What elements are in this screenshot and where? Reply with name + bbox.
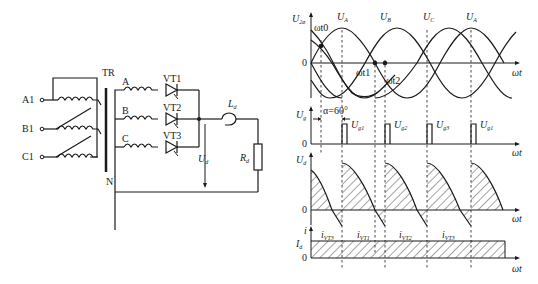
thyristor-label-vt3: VT3 [163,130,181,141]
thyristor-vt1-icon [166,84,199,99]
thyristors: VT1 VT2 VT3 [163,73,201,156]
phase-label-c: C [122,133,129,144]
label-wt1: ωt1 [356,67,370,78]
thyristor-vt2-icon [166,113,199,128]
resistor-icon [254,144,262,170]
peak-label-ua2: UA [466,11,477,23]
phase-label-b: B [122,105,129,116]
rectifier-diagram: A1 B1 C1 TR [0,0,538,284]
label-wt0: ωt0 [314,22,328,33]
coil-b1-icon [58,126,101,134]
thyristor-label-vt2: VT2 [163,102,181,113]
y-axis-label: U2ø [292,13,306,25]
gate-y-label: Ug [296,109,306,121]
pulse-g1b [471,124,476,144]
pulse-g2 [385,124,390,144]
ud-x-label: ωt [512,213,522,224]
terminal-a1 [40,98,44,102]
resistor-label: Rd [239,152,250,164]
point-wt1 [373,61,378,66]
ud-zero: 0 [302,204,307,215]
pulse-label-0: Ug1 [351,119,364,131]
point-wt0 [319,44,324,49]
primary-windings [44,78,101,157]
point-wt2 [383,61,388,66]
segment-label-0: iVT3 [321,229,334,241]
coil-b-icon [124,116,158,119]
pulse-label-3: Ug1 [480,119,493,131]
segment-label-3: iVT3 [442,229,455,241]
coil-a1-icon [58,97,101,105]
pulse-g1 [342,124,347,144]
output-voltage-label: Ud [198,153,209,165]
neutral-label: N [106,176,113,187]
input-terminals: A1 B1 C1 [22,94,44,162]
current-y-label: i [304,225,307,236]
gate-pulse-panel: Ug 0 ωt α=60° Ug1 Ug2 Ug3 Ug1 [296,105,522,158]
guide-lines [321,30,471,270]
output-voltage-panel: Ud 0 ωt [296,152,522,226]
coil-a-icon [124,87,158,90]
circuit: A1 B1 C1 TR [22,67,262,230]
thyristor-label-vt1: VT1 [163,73,181,84]
pulse-g3 [427,124,432,144]
terminal-c1 [40,155,44,159]
transformer-label: TR [102,67,115,78]
peak-label-uc: UC [423,11,435,23]
current-panel: i Id 0 ωt iVT3 iVT1 iVT2 iVT3 [295,225,522,274]
inductor-icon [222,113,236,125]
zero-label: 0 [302,57,307,68]
alpha-label: α=60° [323,105,348,116]
phase-voltage-panel: U2ø 0 ωt UA UB UC UA ωt0 ωt1 ωt2 [292,11,522,98]
current-hatch [311,241,505,258]
input-label-a1: A1 [22,94,34,105]
current-level-label: Id [295,238,303,250]
gate-x-label: ωt [512,147,522,158]
segment-label-1: iVT1 [357,229,370,241]
ud-y-label: Ud [296,154,307,166]
thyristor-vt3-icon [166,141,199,156]
input-label-c1: C1 [22,151,34,162]
coil-c-icon [124,144,158,147]
peak-label-ub: UB [380,11,391,23]
x-axis-label: ωt [512,67,522,78]
current-zero: 0 [302,252,307,263]
gate-zero: 0 [302,138,307,149]
current-x-label: ωt [512,263,522,274]
label-wt2: ωt2 [386,75,400,86]
pulse-label-2: Ug3 [436,119,449,131]
pulse-label-1: Ug2 [394,119,407,131]
terminal-b1 [40,127,44,131]
segment-label-2: iVT2 [399,229,412,241]
secondary-windings: A B C [115,76,158,230]
phase-label-a: A [122,76,130,87]
inductor-label: Ld [227,98,238,110]
input-label-b1: B1 [22,123,34,134]
